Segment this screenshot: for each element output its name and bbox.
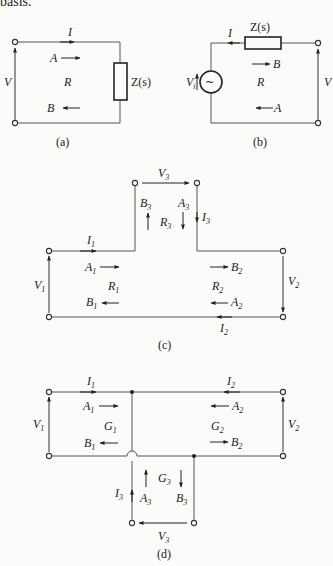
caption-d: (d): [157, 547, 171, 561]
label-current: I: [227, 26, 233, 40]
label-V2: V2: [288, 417, 299, 433]
label-wave-a: A: [273, 101, 282, 115]
caption-b: (b): [253, 135, 267, 149]
label-R2: R2: [211, 279, 223, 295]
label-B3: B3: [176, 491, 187, 507]
label-B1: B1: [86, 295, 97, 311]
terminal: [12, 39, 17, 44]
label-G2: G2: [211, 419, 224, 435]
label-voltage: V: [4, 75, 13, 89]
label-source-voltage: Vi: [186, 75, 196, 91]
terminal: [194, 180, 199, 185]
label-I2: I2: [226, 374, 235, 390]
label-R3: R3: [159, 215, 171, 231]
diagram-b: ~ I Z(s) B R A Vi V (b): [186, 20, 333, 149]
terminal: [46, 248, 51, 253]
caption-c: (c): [158, 338, 171, 352]
diagram-c: V3 B3 A3 R3 I3 I1 A1 R1 B1 V1 B2 R2 A2 V…: [34, 166, 299, 352]
impedance-box: [245, 37, 281, 49]
diagram-d: I1 I2 A1 G1 B1 V1 A2 G2 B2 V2 I3 A3 G3 B…: [33, 374, 299, 561]
label-A3: A3: [139, 491, 151, 507]
label-impedance: Z(s): [131, 75, 151, 89]
label-A1: A1: [82, 399, 94, 415]
label-I3: I3: [114, 486, 123, 502]
label-V1: V1: [34, 278, 45, 294]
label-G3: G3: [158, 471, 171, 487]
label-reflection: R: [63, 75, 72, 89]
terminal: [46, 389, 51, 394]
label-I1: I1: [86, 233, 95, 249]
label-reflection: R: [256, 75, 265, 89]
label-G1: G1: [104, 419, 117, 435]
label-wave-b: B: [47, 101, 55, 115]
label-impedance: Z(s): [250, 20, 270, 34]
junction-dot: [130, 390, 134, 394]
label-wave-b: B: [273, 57, 281, 71]
terminal: [129, 520, 134, 525]
terminal: [46, 314, 51, 319]
circuit-diagrams: I V A R B Z(s) (a) ~ I Z(s) B R A: [0, 0, 333, 566]
label-I2: I2: [219, 321, 228, 337]
label-V3: V3: [158, 166, 169, 182]
source-symbol: ~: [205, 76, 214, 89]
label-B2: B2: [231, 260, 242, 276]
label-V1: V1: [33, 417, 44, 433]
label-A3: A3: [177, 196, 189, 212]
label-V3: V3: [158, 529, 169, 545]
terminal: [46, 453, 51, 458]
junction-dot: [192, 454, 196, 458]
label-I3: I3: [201, 210, 210, 226]
label-V2: V2: [288, 274, 299, 290]
terminal: [315, 40, 320, 45]
label-B2: B2: [231, 435, 242, 451]
label-A1: A1: [84, 260, 96, 276]
terminal: [12, 120, 17, 125]
label-R1: R1: [107, 279, 119, 295]
label-voltage: V: [324, 75, 333, 89]
label-current: I: [67, 25, 73, 39]
label-A2: A2: [231, 399, 243, 415]
label-A2: A2: [230, 295, 242, 311]
terminal: [132, 180, 137, 185]
label-B3: B3: [140, 196, 151, 212]
impedance-box: [114, 63, 127, 100]
diagram-a: I V A R B Z(s) (a): [4, 25, 151, 149]
label-wave-a: A: [49, 51, 58, 65]
terminal: [191, 520, 196, 525]
terminal: [280, 248, 285, 253]
terminal: [315, 120, 320, 125]
terminal: [280, 314, 285, 319]
label-B1: B1: [84, 436, 95, 452]
terminal: [280, 453, 285, 458]
caption-a: (a): [56, 135, 69, 149]
terminal: [280, 389, 285, 394]
label-I1: I1: [86, 374, 95, 390]
